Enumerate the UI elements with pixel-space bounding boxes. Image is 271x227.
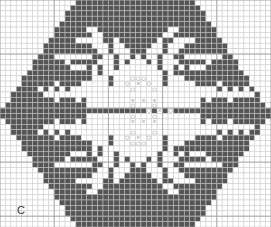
stitch-cell-filled [152,27,157,32]
stitch-cell-empty [255,151,260,156]
stitch-cell-filled [54,195,59,200]
stitch-cell-filled [233,151,238,156]
stitch-cell-empty [54,211,59,216]
stitch-cell-empty [190,38,195,43]
stitch-cell-empty [201,151,206,156]
stitch-cell-filled [173,5,178,10]
stitch-cell-filled [92,108,97,113]
stitch-cell-filled [136,222,141,227]
stitch-cell-filled [157,184,162,189]
stitch-cell-filled [168,211,173,216]
stitch-cell-empty [136,114,141,119]
stitch-cell-filled [49,146,54,151]
stitch-cell-empty [27,32,32,37]
stitch-cell-filled [81,32,86,37]
stitch-cell-empty [190,81,195,86]
stitch-cell-empty [65,222,70,227]
circle-symbol: ○ [141,140,146,146]
stitch-cell-filled [65,114,70,119]
stitch-cell-filled [76,108,81,113]
stitch-cell-filled [81,22,86,27]
stitch-cell-empty [103,49,108,54]
stitch-cell-empty [173,81,178,86]
stitch-cell-filled [228,70,233,75]
stitch-cell-filled [54,59,59,64]
stitch-cell-filled [184,184,189,189]
stitch-cell-empty [33,211,38,216]
stitch-cell-empty [233,11,238,16]
stitch-cell-empty [54,54,59,59]
stitch-cell-empty [11,65,16,70]
stitch-cell-empty [98,92,103,97]
stitch-cell-empty [152,135,157,140]
stitch-cell-filled [33,65,38,70]
stitch-cell-filled [16,92,21,97]
stitch-cell-filled [22,119,27,124]
stitch-cell-filled [87,65,92,70]
stitch-cell-filled [92,157,97,162]
stitch-cell-filled [65,119,70,124]
stitch-cell-empty [146,114,151,119]
stitch-cell-filled [141,49,146,54]
stitch-cell-empty [146,141,151,146]
stitch-cell-filled [125,189,130,194]
stitch-cell-empty [27,59,32,64]
stitch-cell-filled [249,130,254,135]
stitch-cell-empty [114,130,119,135]
stitch-cell-empty [92,124,97,129]
stitch-cell-empty [152,43,157,48]
stitch-cell-filled [70,70,75,75]
stitch-cell-empty [70,86,75,91]
stitch-cell-filled [195,59,200,64]
stitch-cell-empty [114,70,119,75]
stitch-cell-empty [27,49,32,54]
stitch-cell-empty [81,92,86,97]
stitch-cell-empty [98,119,103,124]
stitch-cell-filled [65,168,70,173]
stitch-cell-empty [260,130,265,135]
stitch-cell-empty [260,32,265,37]
stitch-cell-filled [260,119,265,124]
stitch-cell-filled [173,222,178,227]
stitch-cell-filled [114,108,119,113]
stitch-cell-empty [201,86,206,91]
stitch-cell-empty [266,130,271,135]
stitch-cell-empty [136,151,141,156]
stitch-cell-filled [130,43,135,48]
stitch-cell-filled [201,27,206,32]
stitch-cell-empty [27,173,32,178]
stitch-cell-filled [38,97,43,102]
stitch-cell-filled [33,81,38,86]
stitch-cell-empty [11,43,16,48]
stitch-cell-empty [211,11,216,16]
stitch-cell-empty [173,59,178,64]
stitch-cell-filled [168,16,173,21]
stitch-cell-empty [266,157,271,162]
stitch-cell-filled [81,211,86,216]
stitch-cell-empty [244,184,249,189]
stitch-cell-empty [103,43,108,48]
cross-symbol: × [142,97,146,103]
stitch-cell-empty [114,81,119,86]
stitch-cell-empty [163,184,168,189]
stitch-cell-filled [81,103,86,108]
stitch-cell-empty [206,16,211,21]
stitch-cell-filled [211,119,216,124]
stitch-cell-empty [54,222,59,227]
stitch-cell-filled [60,146,65,151]
stitch-cell-empty [136,59,141,64]
stitch-cell-filled [108,195,113,200]
stitch-cell-empty [60,222,65,227]
stitch-cell-filled [119,5,124,10]
stitch-cell-empty [33,11,38,16]
stitch-cell-filled [211,81,216,86]
stitch-cell-filled [49,49,54,54]
stitch-cell-filled [38,119,43,124]
stitch-cell-filled [195,49,200,54]
stitch-cell-empty [5,5,10,10]
stitch-cell-empty [211,200,216,205]
stitch-cell-empty [114,135,119,140]
stitch-cell-empty [260,49,265,54]
stitch-cell-empty [217,32,222,37]
stitch-cell-empty [190,178,195,183]
